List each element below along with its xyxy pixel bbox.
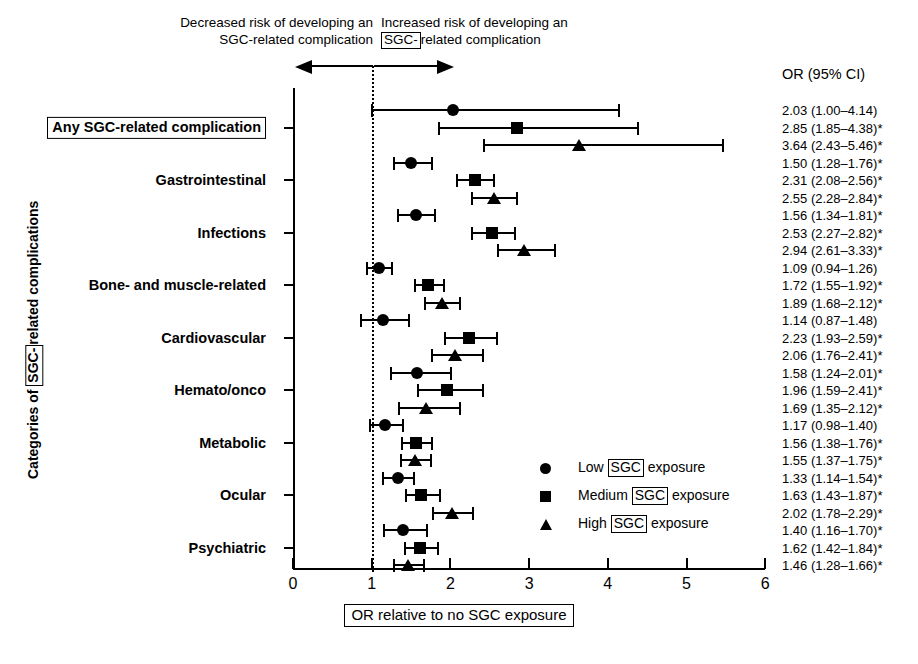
confidence-interval-line: [439, 127, 638, 129]
ci-lower-cap: [382, 472, 384, 485]
ci-lower-cap: [424, 297, 426, 310]
ci-upper-cap: [722, 139, 724, 152]
sgc-boxed-token: SGC-: [381, 32, 421, 49]
or-value-text: 1.72 (1.55–1.92)*: [782, 278, 882, 293]
or-value-text: 2.94 (2.61–3.33)*: [782, 243, 882, 258]
or-value-column: OR (95% CI) 2.03 (1.00–4.14)2.85 (1.85–4…: [782, 66, 918, 82]
ci-lower-cap: [456, 174, 458, 187]
ci-lower-cap: [369, 419, 371, 432]
triangle-marker: [572, 139, 586, 151]
ci-lower-cap: [405, 489, 407, 502]
square-marker: [414, 542, 426, 554]
confidence-interval-line: [372, 109, 619, 111]
right-arrow-line: [374, 65, 437, 67]
square-marker: [415, 489, 427, 501]
triangle-marker: [419, 402, 433, 414]
triangle-marker: [435, 297, 449, 309]
circle-marker: [447, 104, 459, 116]
y-axis-title-wrap: Categories of SGC-related complications: [0, 330, 244, 349]
triangle-marker: [448, 349, 462, 361]
or-value-text: 1.62 (1.42–1.84)*: [782, 540, 882, 555]
legend-label-pre: Medium: [578, 487, 632, 503]
legend-item-label: Medium SGC exposure: [578, 487, 730, 505]
or-value-text: 1.56 (1.34–1.81)*: [782, 208, 882, 223]
y-axis-title: Categories of SGC-related complications: [25, 201, 43, 479]
or-value-text: 2.31 (2.08–2.56)*: [782, 173, 882, 188]
ci-upper-cap: [618, 104, 620, 117]
or-value-text: 1.50 (1.28–1.76)*: [782, 155, 882, 170]
ci-upper-cap: [496, 332, 498, 345]
square-marker: [469, 174, 481, 186]
triangle-marker: [540, 519, 552, 530]
ci-lower-cap: [471, 192, 473, 205]
ci-upper-cap: [391, 262, 393, 275]
ci-lower-cap: [371, 104, 373, 117]
category-label: Any SGC-related complication: [47, 116, 280, 138]
legend-label-pre: High: [578, 515, 611, 531]
ci-lower-cap: [401, 437, 403, 450]
x-axis-tick-label: 6: [761, 575, 770, 593]
ci-upper-cap: [493, 174, 495, 187]
x-axis-tick-label: 0: [289, 575, 298, 593]
left-arrow-line: [310, 65, 373, 67]
category-label: Hemato/onco: [174, 382, 280, 398]
square-marker: [463, 332, 475, 344]
y-axis-title-post: related complications: [25, 201, 41, 345]
x-axis-title: OR relative to no SGC exposure: [0, 604, 918, 627]
x-axis-tick-label: 3: [525, 575, 534, 593]
x-axis-tick-label: 4: [603, 575, 612, 593]
ci-upper-cap: [431, 157, 433, 170]
legend-item-label: Low SGC exposure: [578, 459, 705, 477]
or-value-text: 1.09 (0.94–1.26): [782, 260, 877, 275]
ci-lower-cap: [444, 332, 446, 345]
or-value-text: 2.06 (1.76–2.41)*: [782, 348, 882, 363]
ci-lower-cap: [438, 122, 440, 135]
ci-upper-cap: [423, 559, 425, 572]
or-value-text: 3.64 (2.43–5.46)*: [782, 138, 882, 153]
ci-upper-cap: [443, 279, 445, 292]
ci-upper-cap: [413, 472, 415, 485]
ci-upper-cap: [459, 297, 461, 310]
or-value-text: 1.58 (1.24–2.01)*: [782, 365, 882, 380]
x-axis-tick-label: 5: [682, 575, 691, 593]
square-marker: [410, 437, 422, 449]
x-axis-tick-label: 2: [446, 575, 455, 593]
ci-upper-cap: [637, 122, 639, 135]
increased-risk-line2: SGC-related complication: [381, 31, 641, 49]
or-value-text: 1.96 (1.59–2.41)*: [782, 383, 882, 398]
or-value-text: 1.17 (0.98–1.40): [782, 418, 877, 433]
sgc-boxed-token: SGC: [608, 459, 644, 477]
ci-lower-cap: [471, 227, 473, 240]
ci-lower-cap: [483, 139, 485, 152]
ci-lower-cap: [431, 349, 433, 362]
legend-label-pre: Low: [578, 459, 608, 475]
category-label: Bone- and muscle-related: [89, 277, 280, 293]
or-value-text: 1.63 (1.43–1.87)*: [782, 488, 882, 503]
or-value-text: 1.14 (0.87–1.48): [782, 313, 877, 328]
ci-lower-cap: [390, 367, 392, 380]
ci-upper-cap: [482, 349, 484, 362]
or-value-text: 1.56 (1.38–1.76)*: [782, 435, 882, 450]
or-value-text: 1.69 (1.35–2.12)*: [782, 400, 882, 415]
sgc-boxed-token: SGC: [632, 487, 668, 505]
ci-upper-cap: [430, 454, 432, 467]
ci-lower-cap: [497, 244, 499, 257]
or-value-text: 1.89 (1.68–2.12)*: [782, 295, 882, 310]
ci-upper-cap: [450, 367, 452, 380]
increased-risk-caption: Increased risk of developing an SGC-rela…: [381, 14, 641, 49]
square-marker: [441, 384, 453, 396]
ci-upper-cap: [482, 384, 484, 397]
triangle-marker: [408, 454, 422, 466]
or-value-text: 1.33 (1.14–1.54)*: [782, 470, 882, 485]
or-value-text: 2.03 (1.00–4.14): [782, 103, 877, 118]
legend-label-post: exposure: [644, 459, 705, 475]
square-marker: [486, 227, 498, 239]
ci-lower-cap: [404, 542, 406, 555]
legend-label-post: exposure: [668, 487, 729, 503]
circle-marker: [373, 262, 385, 274]
category-label-text: Any SGC-related complication: [47, 116, 266, 138]
ci-upper-cap: [554, 244, 556, 257]
ci-upper-cap: [472, 507, 474, 520]
or-value-text: 1.55 (1.37–1.75)*: [782, 453, 882, 468]
sgc-boxed-token: SGC: [611, 515, 647, 533]
